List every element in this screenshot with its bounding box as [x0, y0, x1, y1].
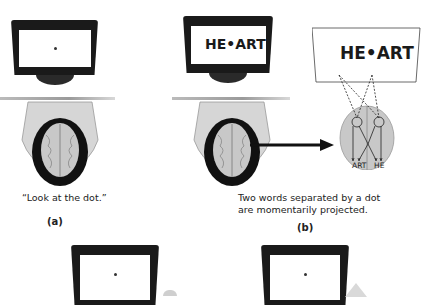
monitor-b-stand: [209, 73, 247, 83]
fixation-dot-c: [114, 273, 117, 276]
label-a: (a): [47, 216, 63, 227]
person-top-view-a: [18, 100, 102, 190]
fixation-dot-d: [304, 273, 307, 276]
monitor-c-screen: [80, 255, 150, 300]
partial-shape-d: [345, 283, 367, 297]
monitor-a-stand: [36, 75, 74, 85]
left-hemisphere-word: ART: [352, 161, 366, 170]
fixation-dot: [54, 47, 57, 50]
caption-b-line2: are momentarily projected.: [238, 204, 368, 216]
right-hemisphere-word: HE: [374, 161, 384, 170]
partial-shape-c: [163, 290, 177, 296]
label-b: (b): [297, 222, 313, 233]
monitor-b-word: HE•ART: [205, 36, 266, 52]
projection-word: HE•ART: [340, 43, 414, 63]
caption-a: “Look at the dot.”: [22, 192, 107, 204]
caption-b-line1: Two words separated by a dot: [238, 192, 380, 204]
monitor-d-screen: [270, 255, 340, 300]
